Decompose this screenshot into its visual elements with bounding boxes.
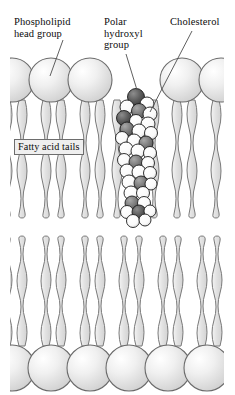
tail-pair	[172, 100, 197, 218]
phospholipid-head	[199, 58, 235, 102]
polar-hydroxyl-leader-line	[126, 54, 137, 90]
tail	[17, 236, 27, 346]
tail	[158, 236, 168, 346]
tail-pair	[80, 100, 105, 218]
label-phospholipid-head-group: Phospholipid head group	[14, 16, 71, 39]
upper-leaflet-head-groups	[0, 58, 235, 102]
tail	[173, 236, 183, 346]
tail	[197, 236, 207, 346]
label-fatty-acid-tails: Fatty acid tails	[14, 139, 84, 155]
tail	[95, 236, 105, 346]
phospholipid-head	[184, 345, 230, 391]
tail	[134, 236, 144, 346]
label-polar-hydroxyl-group: Polar hydroxyl group	[104, 16, 143, 51]
phospholipid-head	[29, 58, 73, 102]
tail-pair	[211, 100, 235, 218]
lower-leaflet-tails	[2, 236, 222, 346]
phospholipid-head	[68, 58, 112, 102]
tail	[212, 236, 222, 346]
tail	[56, 236, 66, 346]
membrane-diagram	[0, 0, 235, 395]
tail	[80, 236, 90, 346]
tail	[41, 236, 51, 346]
label-cholesterol: Cholesterol	[170, 16, 220, 28]
lower-leaflet-head-groups	[0, 345, 230, 391]
tail-pair	[41, 100, 66, 218]
tail	[119, 236, 129, 346]
tail	[2, 236, 12, 346]
tail-pair	[2, 100, 27, 218]
